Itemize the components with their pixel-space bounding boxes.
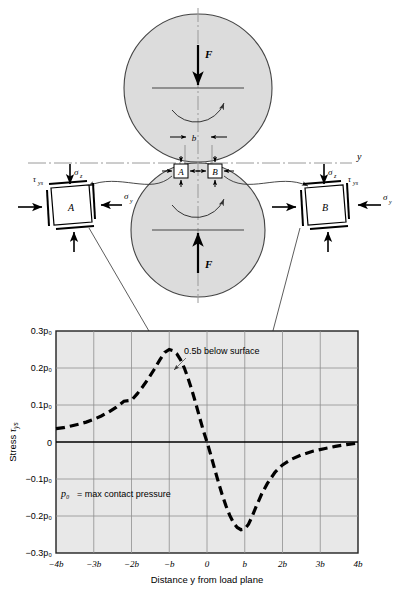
sigma-z-sub-right: z — [333, 173, 337, 179]
tau-label-right: τ — [348, 175, 352, 184]
figure-svg: y F F b A — [0, 0, 397, 594]
svg-text:Stress τys: Stress τys — [7, 422, 20, 462]
x-tick-label: b — [243, 559, 248, 569]
element-b-large-label: B — [322, 202, 328, 213]
sigma-y-label-left: σ — [124, 191, 129, 201]
sigma-z-label-left: σ — [74, 167, 79, 177]
x-tick-label: −2b — [124, 559, 140, 569]
x-tick-label: 4b — [354, 559, 364, 569]
x-axis-title: Distance y from load plane — [151, 574, 263, 585]
x-tick-label: 3b — [315, 559, 326, 569]
force-label-bottom: F — [204, 258, 213, 270]
x-tick-label: 2b — [278, 559, 288, 569]
x-tick-label: −4b — [48, 559, 64, 569]
sigma-y-sub-right: y — [388, 199, 392, 205]
tau-sub-left: ys — [37, 180, 44, 186]
sigma-z-label-right: σ — [328, 167, 333, 177]
element-a-small-label: A — [177, 167, 184, 177]
y-tick-labels: 0.3p₀ 0.2p₀ 0.1p₀ 0 −0.1p₀ −0.2p₀ −0.3p₀ — [25, 326, 52, 558]
y-tick-label: −0.1p₀ — [25, 474, 52, 484]
element-b-small-label: B — [212, 167, 218, 177]
y-axis-title-main: Stress — [7, 432, 18, 462]
y-tick-label: 0.3p₀ — [31, 326, 53, 336]
x-tick-label: −b — [164, 559, 175, 569]
y-tick-label: −0.2p₀ — [25, 511, 52, 521]
y-tick-label: −0.3p₀ — [25, 548, 52, 558]
stress-chart: 0.3p₀ 0.2p₀ 0.1p₀ 0 −0.1p₀ −0.2p₀ −0.3p₀… — [7, 326, 363, 585]
y-axis-label-schematic: y — [356, 151, 362, 162]
y-tick-label: 0.1p₀ — [31, 400, 53, 410]
x-tick-labels: −4b −3b −2b −b 0 b 2b 3b 4b — [48, 559, 363, 569]
x-tick-label: −3b — [86, 559, 102, 569]
pressure-legend: p₀ = max contact pressure — [60, 488, 171, 499]
x-tick-label: 0 — [205, 559, 210, 569]
pressure-legend-text: = max contact pressure — [77, 489, 171, 499]
y-axis-title-subscript: ys — [12, 422, 20, 430]
pressure-legend-symbol: p₀ — [60, 488, 70, 499]
contact-width-label: b — [192, 133, 197, 143]
sigma-z-sub-left: z — [79, 173, 83, 179]
tau-label-left: τ — [33, 175, 37, 184]
element-a-large-label: A — [67, 202, 75, 213]
sigma-y-sub-left: y — [129, 198, 133, 204]
force-label-top: F — [204, 48, 213, 60]
element-a-large: A σ z σ y τ ys — [18, 164, 133, 252]
y-tick-label: 0.2p₀ — [31, 363, 53, 373]
y-tick-label: 0 — [47, 438, 52, 448]
sigma-y-label-right: σ — [383, 192, 388, 202]
peak-annotation-text: 0.5b below surface — [184, 346, 260, 356]
tau-sub-right: ys — [352, 180, 359, 186]
element-b-large: B σ z σ y τ ys — [272, 164, 392, 252]
figure-root: y F F b A — [0, 0, 397, 594]
y-axis-title: Stress τys — [7, 422, 20, 462]
